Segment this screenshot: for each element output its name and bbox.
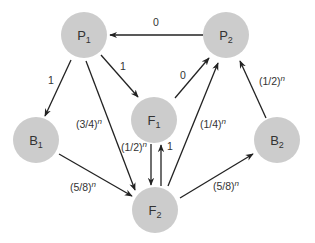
edge-label-f2-p2: (1/4)n — [200, 117, 227, 130]
edge-label-p1-f1: 1 — [120, 60, 126, 72]
node-p1: P1 — [61, 12, 107, 58]
edge-label-p2-p1: 0 — [153, 16, 159, 28]
edge-label-p1-f2: (3/4)n — [76, 117, 103, 130]
edge-label-f1-f2: (1/2)n — [121, 140, 148, 153]
edge-label-b2-p2: (1/2)n — [259, 74, 286, 87]
edge-label-p1-b1: 1 — [48, 74, 54, 86]
edge-p1-b1 — [45, 60, 71, 116]
node-f2: F2 — [132, 187, 178, 233]
node-b1: B1 — [13, 117, 59, 163]
node-b2: B2 — [254, 117, 300, 163]
edge-label-f1-p2: 0 — [180, 69, 186, 81]
node-f1: F1 — [131, 97, 177, 143]
markov-diagram: 0 1 1 (3/4)n 0 (1/2)n (1/4)n (1/2)n 1 (5… — [0, 0, 315, 243]
edge-label-b1-f2: (5/8)n — [70, 180, 97, 193]
edge-label-f2-b2: (5/8)n — [213, 179, 240, 192]
node-p2: P2 — [203, 12, 249, 58]
edge-label-f2-f1: 1 — [167, 140, 173, 152]
edge-b2-p2 — [240, 61, 266, 118]
